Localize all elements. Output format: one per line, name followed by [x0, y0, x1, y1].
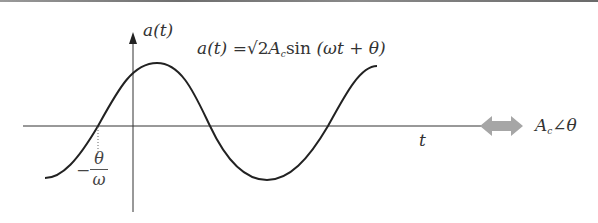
angle-symbol-icon: ∠ [552, 115, 566, 135]
amplitude-axis-arrowhead-icon [129, 32, 137, 44]
phase-fraction: θ ω [90, 150, 108, 189]
formula-argument: (ωt + θ) [316, 38, 385, 58]
formula-amplitude: A [269, 38, 281, 58]
phasor-notation: Ac∠θ [535, 115, 577, 136]
sinusoid-diagram [0, 0, 598, 223]
phase-denominator: ω [92, 171, 105, 189]
y-axis-label: a(t) [143, 20, 173, 40]
formula-lhs: a(t) [197, 38, 227, 58]
formula: a(t) =√2Acsin (ωt + θ) [197, 38, 386, 59]
formula-sqrt: √2 [247, 38, 269, 58]
formula-equals: = [233, 38, 247, 58]
x-axis-label: t [419, 130, 426, 150]
phasor-amplitude: A [535, 115, 547, 135]
phasor-angle: θ [567, 115, 577, 135]
phase-numerator: θ [94, 150, 104, 168]
equivalence-double-arrow-icon [480, 116, 523, 136]
phase-minus-sign: − [76, 160, 90, 180]
formula-function: sin [286, 38, 311, 58]
